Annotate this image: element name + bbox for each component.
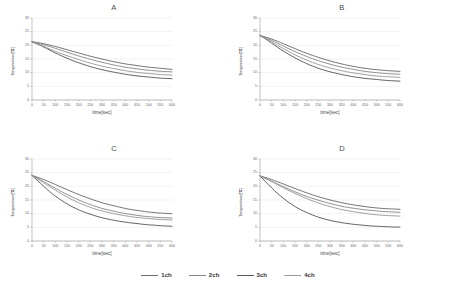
legend-label: 4ch bbox=[304, 272, 315, 278]
x-axis-label: time[sec] bbox=[314, 110, 346, 115]
x-tick-label: 600 bbox=[393, 103, 407, 107]
panel-title: C bbox=[0, 144, 228, 153]
y-tick-label: 5 bbox=[16, 84, 29, 88]
legend-item-2ch[interactable]: 2ch bbox=[189, 272, 220, 278]
figure-grid: A 05101520253005010015020025030035040045… bbox=[0, 0, 456, 282]
y-tick-label: 25 bbox=[16, 170, 29, 174]
y-tick-label: 5 bbox=[244, 84, 257, 88]
y-tick-label: 0 bbox=[244, 239, 257, 243]
y-tick-label: 0 bbox=[16, 239, 29, 243]
x-axis-label: time[sec] bbox=[86, 110, 118, 115]
y-tick-label: 15 bbox=[16, 198, 29, 202]
plot-area: 0510152025300501001502002503003504004505… bbox=[228, 12, 428, 112]
panel-title: A bbox=[0, 3, 228, 12]
series-line-4ch bbox=[260, 35, 400, 77]
y-tick-label: 30 bbox=[244, 157, 257, 161]
panel-title: D bbox=[228, 144, 456, 153]
x-tick-label: 600 bbox=[165, 244, 179, 248]
y-tick-label: 0 bbox=[16, 98, 29, 102]
y-axis-label: Temperature[℃] bbox=[238, 188, 243, 217]
y-tick-label: 25 bbox=[244, 170, 257, 174]
plot-svg bbox=[0, 153, 200, 253]
y-tick-label: 20 bbox=[244, 184, 257, 188]
legend-swatch-icon bbox=[141, 275, 158, 276]
series-line-2ch bbox=[32, 175, 172, 218]
x-tick-label: 600 bbox=[165, 103, 179, 107]
x-axis-label: time[sec] bbox=[314, 251, 346, 256]
legend-item-3ch[interactable]: 3ch bbox=[237, 272, 268, 278]
y-tick-label: 25 bbox=[16, 29, 29, 33]
panel-c: C 05101520253005010015020025030035040045… bbox=[0, 141, 228, 261]
y-tick-label: 10 bbox=[16, 211, 29, 215]
panel-a: A 05101520253005010015020025030035040045… bbox=[0, 0, 228, 141]
legend-label: 3ch bbox=[257, 272, 268, 278]
plot-svg bbox=[0, 12, 200, 112]
legend-item-1ch[interactable]: 1ch bbox=[141, 272, 172, 278]
y-tick-label: 15 bbox=[244, 57, 257, 61]
y-tick-label: 20 bbox=[244, 43, 257, 47]
y-axis-label: Temperature[℃] bbox=[238, 47, 243, 76]
y-tick-label: 15 bbox=[16, 57, 29, 61]
series-line-2ch bbox=[260, 35, 400, 74]
legend-label: 1ch bbox=[161, 272, 172, 278]
y-tick-label: 30 bbox=[16, 16, 29, 20]
series-line-3ch bbox=[260, 176, 400, 227]
x-axis-label: time[sec] bbox=[86, 251, 118, 256]
legend-label: 2ch bbox=[209, 272, 220, 278]
chart-legend: 1ch2ch3ch4ch bbox=[0, 272, 456, 278]
y-tick-label: 25 bbox=[244, 29, 257, 33]
y-tick-label: 30 bbox=[16, 157, 29, 161]
legend-item-4ch[interactable]: 4ch bbox=[284, 272, 315, 278]
series-line-1ch bbox=[32, 42, 172, 70]
panel-d: D 05101520253005010015020025030035040045… bbox=[228, 141, 456, 261]
y-axis-label: Temperature[℃] bbox=[10, 47, 15, 76]
series-line-4ch bbox=[32, 175, 172, 220]
legend-swatch-icon bbox=[284, 275, 301, 276]
series-line-1ch bbox=[260, 176, 400, 209]
y-tick-label: 0 bbox=[244, 98, 257, 102]
y-tick-label: 30 bbox=[244, 16, 257, 20]
y-tick-label: 5 bbox=[16, 225, 29, 229]
y-tick-label: 10 bbox=[244, 211, 257, 215]
y-tick-label: 10 bbox=[244, 70, 257, 74]
plot-svg bbox=[228, 12, 428, 112]
y-tick-label: 20 bbox=[16, 43, 29, 47]
plot-area: 0510152025300501001502002503003504004505… bbox=[228, 153, 428, 253]
legend-swatch-icon bbox=[237, 275, 254, 276]
x-tick-label: 600 bbox=[393, 244, 407, 248]
y-tick-label: 20 bbox=[16, 184, 29, 188]
y-axis-label: Temperature[℃] bbox=[10, 188, 15, 217]
y-tick-label: 10 bbox=[16, 70, 29, 74]
series-line-1ch bbox=[260, 35, 400, 71]
panel-b: B 05101520253005010015020025030035040045… bbox=[228, 0, 456, 141]
plot-area: 0510152025300501001502002503003504004505… bbox=[0, 153, 200, 253]
y-tick-label: 5 bbox=[244, 225, 257, 229]
panel-title: B bbox=[228, 3, 456, 12]
plot-area: 0510152025300501001502002503003504004505… bbox=[0, 12, 200, 112]
legend-swatch-icon bbox=[189, 275, 206, 276]
plot-svg bbox=[228, 153, 428, 253]
y-tick-label: 15 bbox=[244, 198, 257, 202]
